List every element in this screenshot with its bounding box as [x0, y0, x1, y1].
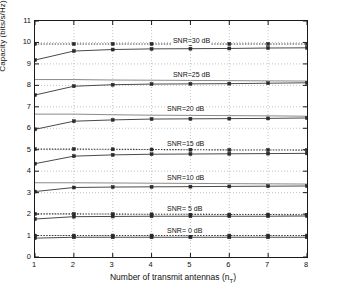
x-tick-8: 8: [298, 260, 314, 269]
data-point-marker: [35, 42, 37, 45]
data-point-marker: [189, 47, 192, 50]
data-point-marker: [189, 185, 192, 188]
data-point-marker: [228, 42, 231, 45]
series-line: [35, 153, 307, 163]
data-point-marker: [72, 42, 75, 45]
data-point-marker: [267, 117, 270, 120]
plot-area: [34, 20, 308, 258]
data-point-marker: [35, 94, 37, 97]
y-tick-2: 2: [7, 209, 31, 218]
data-point-marker: [306, 42, 308, 45]
annotation-snr-5-db: SNR= 5 dB: [166, 205, 203, 213]
data-point-marker: [228, 185, 231, 188]
data-point-marker: [267, 47, 270, 50]
data-point-marker: [150, 148, 153, 151]
data-point-marker: [35, 218, 37, 221]
annotation-snr-25-db: SNR=25 dB: [172, 71, 211, 79]
data-point-marker: [111, 215, 114, 218]
y-tick-9: 9: [7, 59, 31, 68]
annotation-snr-10-db: SNR=10 dB: [166, 174, 205, 182]
data-point-marker: [35, 128, 37, 131]
data-point-marker: [189, 82, 192, 85]
plot-canvas: [35, 21, 307, 257]
y-tick-3: 3: [7, 188, 31, 197]
data-point-marker: [228, 148, 231, 151]
x-tick-6: 6: [220, 260, 236, 269]
data-point-marker: [111, 186, 114, 189]
data-point-marker: [306, 81, 308, 84]
data-point-marker: [72, 50, 75, 53]
series-line: [35, 118, 307, 129]
data-point-marker: [306, 184, 308, 187]
data-point-marker: [150, 83, 153, 86]
series-line: [35, 83, 307, 95]
data-point-marker: [111, 42, 114, 45]
data-point-marker: [306, 116, 308, 119]
annotation-snr-15-db: SNR=15 dB: [166, 140, 205, 148]
data-point-marker: [306, 46, 308, 49]
data-point-marker: [72, 85, 75, 88]
data-point-marker: [228, 236, 231, 239]
y-axis-label: Capacity (bits/s/Hz): [0, 0, 7, 96]
data-point-marker: [228, 152, 231, 155]
data-point-marker: [35, 148, 37, 151]
y-tick-8: 8: [7, 80, 31, 89]
x-tick-2: 2: [65, 260, 81, 269]
data-point-marker: [150, 236, 153, 239]
data-point-marker: [150, 215, 153, 218]
y-tick-10: 10: [7, 37, 31, 46]
data-point-marker: [267, 215, 270, 218]
data-point-marker: [111, 83, 114, 86]
data-point-marker: [228, 117, 231, 120]
data-point-marker: [72, 120, 75, 123]
y-tick-5: 5: [7, 145, 31, 154]
data-point-marker: [72, 215, 75, 218]
x-tick-7: 7: [259, 260, 275, 269]
data-point-marker: [72, 236, 75, 239]
data-point-marker: [267, 185, 270, 188]
y-tick-1: 1: [7, 231, 31, 240]
series-line: [35, 80, 307, 82]
data-point-marker: [150, 47, 153, 50]
x-tick-4: 4: [143, 260, 159, 269]
data-point-marker: [35, 190, 37, 193]
data-point-marker: [35, 59, 37, 62]
x-axis-label-main: Number of transmit antennas (n: [110, 272, 230, 282]
series-line: [35, 186, 307, 192]
data-point-marker: [189, 153, 192, 156]
data-point-marker: [35, 212, 37, 215]
data-point-marker: [111, 118, 114, 121]
y-tick-11: 11: [7, 16, 31, 25]
x-axis-label: Number of transmit antennas (nT): [0, 272, 346, 284]
data-point-marker: [111, 153, 114, 156]
data-point-marker: [150, 42, 153, 45]
data-point-marker: [150, 118, 153, 121]
y-tick-4: 4: [7, 166, 31, 175]
data-point-marker: [189, 236, 192, 239]
data-point-marker: [267, 82, 270, 85]
data-point-marker: [228, 47, 231, 50]
data-point-marker: [150, 185, 153, 188]
data-point-marker: [267, 152, 270, 155]
series-line: [35, 237, 307, 238]
x-tick-3: 3: [104, 260, 120, 269]
data-point-marker: [267, 42, 270, 45]
grid-lines: [35, 21, 307, 257]
annotation-snr-0-db: SNR= 0 dB: [166, 227, 203, 235]
data-point-marker: [306, 152, 308, 155]
data-point-marker: [228, 215, 231, 218]
data-point-marker: [111, 236, 114, 239]
y-tick-6: 6: [7, 123, 31, 132]
data-point-marker: [267, 236, 270, 239]
data-point-marker: [72, 186, 75, 189]
annotation-snr-20-db: SNR=20 dB: [166, 105, 205, 113]
tick-marks: [35, 21, 307, 257]
data-point-marker: [111, 148, 114, 151]
series-line: [35, 216, 307, 219]
data-point-marker: [111, 48, 114, 51]
x-tick-1: 1: [26, 260, 42, 269]
chart-figure: Capacity (bits/s/Hz) Number of transmit …: [0, 0, 346, 292]
data-point-marker: [72, 148, 75, 151]
data-point-marker: [306, 215, 308, 218]
data-point-marker: [189, 117, 192, 120]
